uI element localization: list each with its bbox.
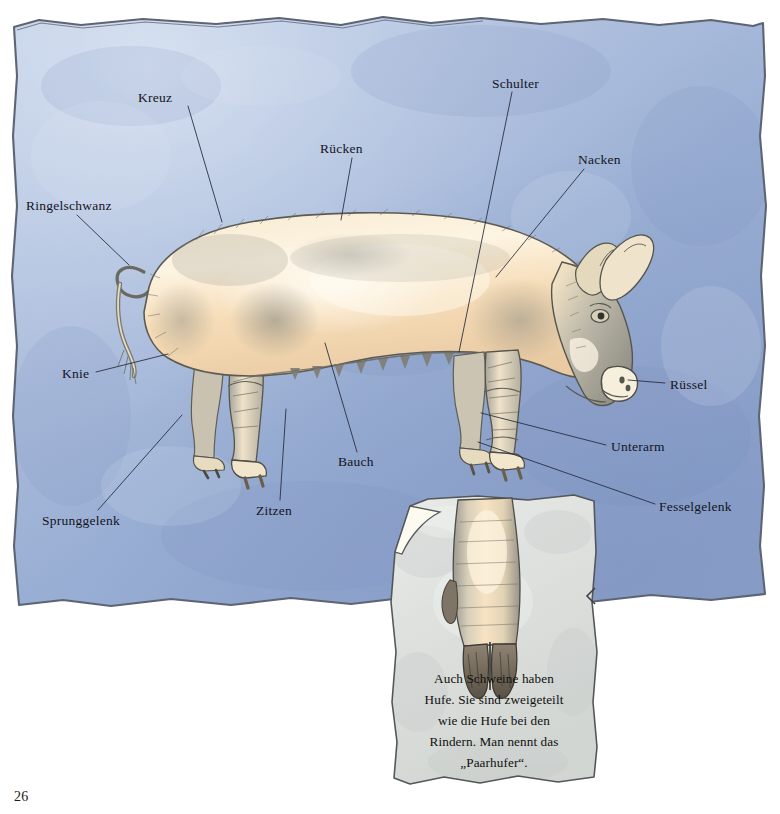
note-text: Auch Schweine haben Hufe. Sie sind zweig…	[402, 668, 586, 773]
label-unterarm: Unterarm	[611, 440, 665, 454]
label-bauch: Bauch	[338, 455, 374, 469]
label-ruecken: Rücken	[320, 142, 363, 156]
label-zitzen: Zitzen	[256, 504, 292, 518]
note-line-5: „Paarhufer“.	[402, 752, 586, 773]
pig-snout	[601, 366, 637, 401]
label-knie: Knie	[62, 367, 89, 381]
label-ringelschwanz: Ringelschwanz	[26, 199, 112, 213]
label-ruessel: Rüssel	[670, 378, 708, 392]
label-kreuz: Kreuz	[138, 91, 172, 105]
label-nacken: Nacken	[578, 153, 621, 167]
label-fesselgelenk: Fesselgelenk	[659, 500, 732, 514]
pig-svg	[100, 200, 660, 490]
book-page: Kreuz Schulter Rücken Nacken Ringelschwa…	[0, 0, 780, 814]
note-line-2: Hufe. Sie sind zweigeteilt	[402, 689, 586, 710]
label-sprunggelenk: Sprunggelenk	[42, 514, 120, 528]
pig-side-view-illustration	[100, 200, 660, 490]
pig-front-legs	[453, 350, 524, 480]
cloven-hoof-note: Auch Schweine haben Hufe. Sie sind zweig…	[388, 492, 600, 788]
pig-body	[144, 209, 619, 380]
page-number: 26	[14, 789, 29, 805]
note-line-1: Auch Schweine haben	[402, 668, 586, 689]
label-schulter: Schulter	[492, 77, 539, 91]
note-line-3: wie die Hufe bei den	[402, 710, 586, 731]
pig-tail	[117, 268, 148, 384]
note-line-4: Rindern. Man nennt das	[402, 731, 586, 752]
